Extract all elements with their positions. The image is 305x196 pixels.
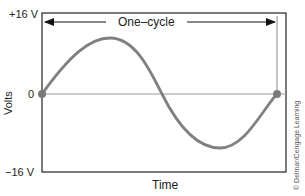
x-axis-label: Time	[152, 178, 178, 192]
y-tick-bottom: −16 V	[5, 166, 34, 178]
y-tick-zero: 0	[28, 88, 34, 100]
start-point	[38, 90, 46, 98]
y-tick-top: +16 V	[9, 8, 38, 20]
copyright-credit: © Delmar/Cengage Learning	[293, 101, 300, 190]
cycle-label: One–cycle	[118, 15, 175, 29]
sine-curve	[42, 38, 277, 148]
y-axis-label: Volts	[2, 91, 14, 115]
sine-wave-diagram	[0, 0, 305, 196]
end-point	[273, 90, 281, 98]
plot-frame	[42, 13, 286, 172]
